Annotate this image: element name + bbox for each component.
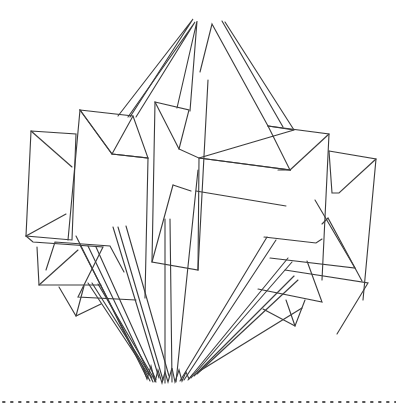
origami-fan-illustration (0, 0, 396, 408)
origami-fan-lines (26, 19, 376, 383)
